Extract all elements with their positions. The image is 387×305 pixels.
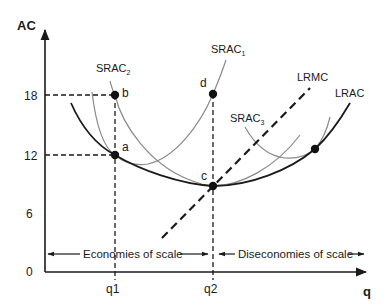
y-tick-0: 0 [26,265,33,279]
x-tick-q1: q1 [106,282,120,296]
point-lrac-srac3 [311,145,319,153]
point-c [209,182,217,190]
y-tick-18: 18 [24,89,38,103]
point-d [209,90,217,98]
y-axis-label: AC [17,18,36,33]
lrac-label: LRAC [335,87,364,99]
srac1-label: SRAC1 [211,43,246,57]
y-tick-6: 6 [26,207,33,221]
lrmc-line [162,88,310,238]
point-c-label: c [201,169,207,183]
srac2-label: SRAC2 [96,62,131,76]
diseconomies-of-scale-label: Diseconomies of scale [238,248,353,260]
point-b-label: b [122,86,129,100]
x-axis-label: q [363,284,371,299]
economies-of-scale-label: Economies of scale [83,248,183,260]
lrac-curve [71,103,350,186]
point-a-label: a [122,140,129,154]
point-b [111,91,119,99]
point-d-label: d [200,76,207,90]
economies-of-scale-diagram: AC q 18 12 6 0 q1 q2 SRAC2 SRAC1 SRAC3 L… [0,0,387,305]
srac3-label: SRAC3 [230,112,265,126]
point-a [111,151,119,159]
lrmc-label: LRMC [297,71,328,83]
x-tick-q2: q2 [204,282,218,296]
y-tick-12: 12 [24,149,38,163]
